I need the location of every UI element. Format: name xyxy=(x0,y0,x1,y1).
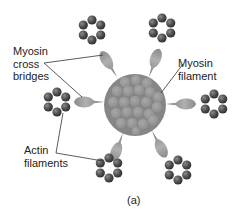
actin-filaments-label: Actin filaments xyxy=(24,144,68,169)
myosin-filament xyxy=(104,74,166,136)
label-line: cross xyxy=(13,58,49,71)
label-line: filament xyxy=(178,70,217,83)
cross-bridges-label: Myosin cross bridges xyxy=(13,45,49,83)
figure-caption: (a) xyxy=(127,194,140,207)
myosin-filament-label: Myosin filament xyxy=(178,57,217,82)
label-line: bridges xyxy=(13,70,49,83)
thick-filament-cross-section-diagram xyxy=(0,0,239,218)
label-line: Myosin xyxy=(13,45,49,58)
label-line: filaments xyxy=(24,157,68,170)
label-line: Actin xyxy=(24,144,68,157)
label-line: Myosin xyxy=(178,57,217,70)
